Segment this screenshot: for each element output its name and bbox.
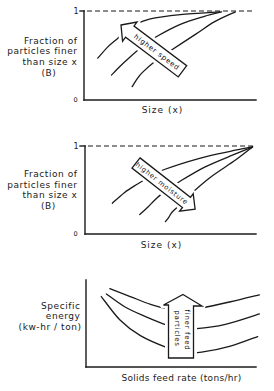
figure: Fraction of particles finer than size x …	[0, 0, 274, 391]
y-label-line-4: (B)	[42, 68, 57, 78]
y-axis-label: Fraction of particles finer than size x …	[7, 36, 78, 78]
y-tick-top: 1	[73, 142, 78, 151]
y-axis-label: Fraction of particles finer than size x …	[7, 169, 78, 211]
y-label-line-4: (B)	[41, 201, 56, 211]
y-label-line-1: Specific	[41, 301, 80, 311]
y-label-line-1: Fraction of	[24, 36, 78, 46]
y-label-line-3: than size x	[22, 190, 77, 200]
y-label-line-2: particles finer	[7, 46, 77, 56]
y-label-line-3: than size x	[22, 57, 77, 67]
x-axis-label: Size (x)	[142, 105, 184, 115]
chart-particle-size-speed: Fraction of particles finer than size x …	[7, 7, 256, 115]
chart-particle-size-moisture: Fraction of particles finer than size x …	[7, 142, 256, 250]
x-axis-label: Size (x)	[141, 240, 183, 250]
arrow-label-line-1: finer feed	[183, 310, 191, 351]
y-tick-top: 1	[73, 7, 78, 16]
y-label-line-2: energy	[46, 311, 81, 321]
y-tick-bottom: 0	[73, 96, 77, 104]
x-axis-label: Solids feed rate (tons/hr)	[121, 373, 241, 383]
y-tick-bottom: 0	[73, 230, 77, 238]
y-axis-label: Specific energy (kw-hr / ton)	[19, 301, 82, 332]
arrow-label: higher moisture	[134, 161, 190, 207]
y-label-line-1: Fraction of	[24, 169, 78, 179]
chart-specific-energy: Specific energy (kw-hr / ton) finer feed…	[19, 280, 260, 383]
y-label-line-3: (kw-hr / ton)	[19, 322, 82, 332]
arrow-finer-feed-particles: finer feed particles	[164, 295, 203, 359]
arrow-label-line-2: particles	[173, 310, 181, 346]
arrow-higher-moisture: higher moisture	[129, 154, 202, 218]
y-label-line-2: particles finer	[7, 180, 77, 190]
